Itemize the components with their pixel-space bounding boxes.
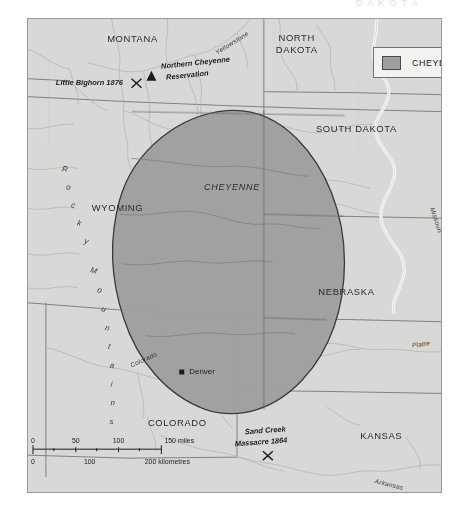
state-label-colorado: COLORADO	[148, 417, 207, 428]
site-label-little-bighorn: Little Bighorn 1876	[56, 78, 124, 87]
map-legend: CHEYENNE	[373, 47, 442, 78]
map-page: D A K O T A	[0, 0, 456, 505]
scale-miles-tick-1: 50	[72, 437, 80, 444]
state-label-nebraska: NEBRASKA	[318, 286, 374, 297]
scale-km-tick-2: 200 kilometres	[145, 458, 191, 465]
state-label-kansas: KANSAS	[360, 430, 402, 441]
scale-km-tick-0: 0	[31, 458, 35, 465]
state-label-north: NORTH	[279, 32, 315, 43]
legend-swatch-cheyenne	[382, 56, 401, 70]
territory-label-cheyenne: CHEYENNE	[204, 182, 260, 192]
state-label-dakota: DAKOTA	[276, 44, 318, 55]
state-label-montana: MONTANA	[107, 33, 158, 44]
map-graphic: MONTANA NORTH DAKOTA SOUTH DAKOTA WYOMIN…	[28, 19, 441, 492]
state-label-wyoming: WYOMING	[92, 202, 143, 213]
scale-miles-tick-2: 100	[113, 437, 125, 444]
scale-km-tick-1: 100	[84, 458, 96, 465]
mtn-letter-13: s	[110, 417, 114, 426]
scale-miles-tick-0: 0	[31, 437, 35, 444]
cut-off-header-text: D A K O T A	[356, 0, 446, 8]
map-canvas: MONTANA NORTH DAKOTA SOUTH DAKOTA WYOMIN…	[27, 18, 442, 493]
state-label-south-dakota: SOUTH DAKOTA	[316, 123, 397, 134]
city-marker-square	[179, 370, 184, 375]
scale-miles-tick-3: 150 miles	[164, 437, 194, 444]
city-label-denver: Denver	[189, 367, 215, 376]
legend-label-cheyenne: CHEYENNE	[412, 58, 442, 68]
